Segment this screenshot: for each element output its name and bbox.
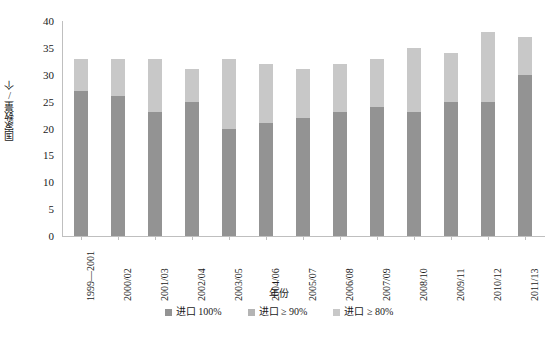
x-axis-category-label: 1999—2001 [86,243,96,253]
x-axis-category-label: 2010/12 [493,243,503,253]
x-axis-category-label: 2002/04 [197,243,207,253]
x-axis-category-label: 2007/09 [382,243,392,253]
x-axis-tick [414,236,415,240]
bar-column[interactable] [185,21,199,236]
bar-column[interactable] [222,21,236,236]
bar-column[interactable] [518,21,532,236]
bar-column[interactable] [148,21,162,236]
bar-segment[interactable] [259,64,273,123]
x-axis-tick [488,236,489,240]
legend-label: 进口 ≥ 90% [259,306,308,318]
x-axis-tick [118,236,119,240]
y-axis-tick-label: 35 [28,43,54,54]
bar-segment[interactable] [370,59,384,107]
bar-column[interactable] [370,21,384,236]
x-axis-tick [266,236,267,240]
bar-segment[interactable] [333,112,347,236]
bar-segment[interactable] [185,69,199,101]
y-axis-tick-label: 10 [28,177,54,188]
bar-column[interactable] [481,21,495,236]
y-axis-tick-label: 40 [28,16,54,27]
bar-segment[interactable] [444,102,458,236]
x-axis-tick [81,236,82,240]
x-axis-category-label-text: 2011/13 [530,269,540,301]
bar-segment[interactable] [481,32,495,102]
x-axis-tick [340,236,341,240]
stacked-bar-chart: 国家数量/个 0510152025303540 年份 进口 100%进口 ≥ 9… [0,0,558,345]
x-axis-category-label-text: 1999—2001 [86,251,96,301]
x-axis-tick [451,236,452,240]
bar-segment[interactable] [407,48,421,113]
x-axis-category-label-text: 2009/11 [456,269,466,301]
x-axis-category-label-text: 2001/03 [160,268,170,301]
bar-column[interactable] [296,21,310,236]
bar-column[interactable] [333,21,347,236]
bar-segment[interactable] [259,123,273,236]
bar-segment[interactable] [296,69,310,117]
y-axis-tick-label: 30 [28,70,54,81]
legend-entry[interactable]: 进口 ≥ 80% [333,306,393,318]
x-axis-tick [303,236,304,240]
x-axis-category-label-text: 2000/02 [123,268,133,301]
bar-column[interactable] [444,21,458,236]
legend-label: 进口 ≥ 80% [344,306,393,318]
x-axis-category-label: 2006/08 [345,243,355,253]
bar-segment[interactable] [111,59,125,97]
x-axis-category-label-text: 2003/05 [234,268,244,301]
x-axis-category-label-text: 2010/12 [493,268,503,301]
bar-segment[interactable] [481,102,495,236]
bar-segment[interactable] [222,129,236,237]
bar-segment[interactable] [296,118,310,236]
x-axis-category-label-text: 2008/10 [419,268,429,301]
x-axis-category-label-text: 2006/08 [345,268,355,301]
legend-swatch-icon [333,309,340,316]
bar-segment[interactable] [111,96,125,236]
x-axis-category-label: 2008/10 [419,243,429,253]
x-axis-tick [229,236,230,240]
bar-segment[interactable] [518,75,532,236]
x-axis-tick [155,236,156,240]
bar-column[interactable] [74,21,88,236]
bar-segment[interactable] [518,37,532,75]
y-axis-tick-label: 0 [28,231,54,242]
bar-segment[interactable] [74,59,88,91]
bar-segment[interactable] [74,91,88,236]
bar-segment[interactable] [222,59,236,129]
chart-legend: 进口 100%进口 ≥ 90%进口 ≥ 80% [0,306,558,318]
bar-segment[interactable] [407,112,421,236]
x-axis-tick [525,236,526,240]
bar-segment[interactable] [148,59,162,113]
x-axis-tick [377,236,378,240]
x-axis-category-label: 2001/03 [160,243,170,253]
x-axis-category-label-text: 2007/09 [382,268,392,301]
legend-label: 进口 100% [176,306,222,318]
bar-column[interactable] [259,21,273,236]
plot-area [62,21,544,236]
y-axis-tick-label: 20 [28,124,54,135]
x-axis-category-label: 2004/06 [271,243,281,253]
bar-segment[interactable] [333,64,347,112]
bar-column[interactable] [111,21,125,236]
y-axis-tick-label: 5 [28,204,54,215]
bar-segment[interactable] [185,102,199,236]
x-axis-tick [192,236,193,240]
x-axis-category-label: 2005/07 [308,243,318,253]
x-axis-category-label-text: 2002/04 [197,268,207,301]
bar-column[interactable] [407,21,421,236]
x-axis-category-label-text: 2005/07 [308,268,318,301]
bar-segment[interactable] [148,112,162,236]
x-axis-category-label: 2011/13 [530,243,540,253]
x-axis-category-label: 2003/05 [234,243,244,253]
y-axis-tick-label: 25 [28,97,54,108]
x-axis-category-label-text: 2004/06 [271,268,281,301]
legend-swatch-icon [165,309,172,316]
legend-entry[interactable]: 进口 ≥ 90% [248,306,308,318]
y-axis-title: 国家数量/个 [4,80,20,141]
legend-entry[interactable]: 进口 100% [165,306,222,318]
x-axis-category-label: 2009/11 [456,243,466,253]
bar-segment[interactable] [444,53,458,101]
bar-segment[interactable] [370,107,384,236]
x-axis-category-label: 2000/02 [123,243,133,253]
y-axis-tick-label: 15 [28,150,54,161]
legend-swatch-icon [248,309,255,316]
